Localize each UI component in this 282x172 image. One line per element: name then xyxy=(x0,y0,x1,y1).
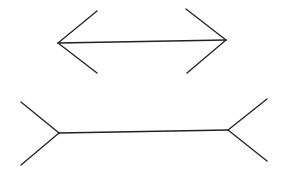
bottom-arrow xyxy=(21,99,267,165)
top-right-upper-fin xyxy=(186,9,226,40)
bottom-left-lower-fin xyxy=(21,133,59,165)
bottom-right-upper-fin xyxy=(228,99,267,130)
top-arrow xyxy=(58,9,226,73)
muller-lyer-figure xyxy=(0,0,282,172)
bottom-right-lower-fin xyxy=(228,130,267,161)
top-shaft xyxy=(58,40,226,43)
top-left-upper-fin xyxy=(58,11,97,43)
bottom-shaft xyxy=(59,130,228,133)
bottom-left-upper-fin xyxy=(21,102,59,133)
top-right-lower-fin xyxy=(187,40,226,73)
top-left-lower-fin xyxy=(58,43,97,73)
